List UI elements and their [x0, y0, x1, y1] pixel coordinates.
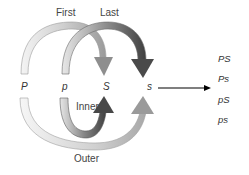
- allele-S: S: [103, 81, 110, 92]
- label-first: First: [56, 7, 75, 18]
- result-arrow: [158, 85, 211, 91]
- label-last: Last: [100, 7, 119, 18]
- label-outer: Outer: [74, 153, 99, 164]
- last-arrow: [62, 22, 154, 78]
- combination-Ps: Ps: [218, 73, 229, 84]
- combination-pS: pS: [218, 94, 230, 105]
- combination-ps: ps: [218, 114, 228, 125]
- allele-p: p: [62, 81, 68, 92]
- allele-P: P: [21, 81, 28, 92]
- label-inner: Inner: [76, 101, 99, 112]
- allele-s: s: [147, 81, 152, 92]
- foil-arrows: [0, 0, 249, 175]
- combination-PS: PS: [218, 53, 231, 64]
